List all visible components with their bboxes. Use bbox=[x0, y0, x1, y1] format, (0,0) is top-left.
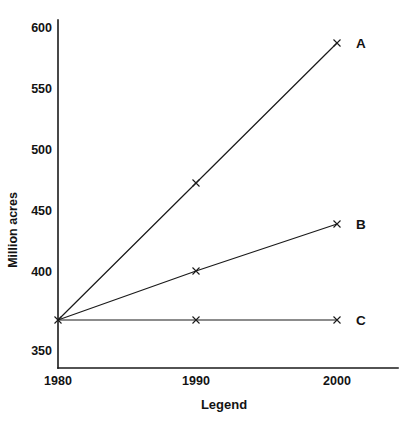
x-tick-label-1990: 1990 bbox=[182, 374, 210, 388]
y-tick-label-450: 450 bbox=[31, 204, 52, 218]
chart-canvas: 600 550 500 450 400 350 1980 1990 2000 M… bbox=[0, 0, 412, 421]
marker-series-b-1990 bbox=[193, 268, 200, 275]
y-tick-label-500: 500 bbox=[31, 143, 52, 157]
y-axis-title: Million acres bbox=[6, 192, 20, 268]
series-label-a: A bbox=[356, 36, 366, 51]
marker-series-a-2000 bbox=[334, 40, 341, 47]
y-tick-label-600: 600 bbox=[31, 21, 52, 35]
y-tick-label-350: 350 bbox=[31, 344, 52, 358]
x-tick-label-2000: 2000 bbox=[323, 374, 351, 388]
y-tick-label-400: 400 bbox=[31, 265, 52, 279]
line-chart: 600 550 500 450 400 350 1980 1990 2000 M… bbox=[0, 0, 412, 421]
marker-series-a-1990 bbox=[193, 180, 200, 187]
series-label-b: B bbox=[356, 217, 366, 232]
marker-series-b-2000 bbox=[334, 221, 341, 228]
y-tick-label-550: 550 bbox=[31, 82, 52, 96]
x-tick-label-1980: 1980 bbox=[44, 374, 72, 388]
x-axis-title: Legend bbox=[201, 397, 247, 412]
series-label-c: C bbox=[356, 313, 366, 328]
